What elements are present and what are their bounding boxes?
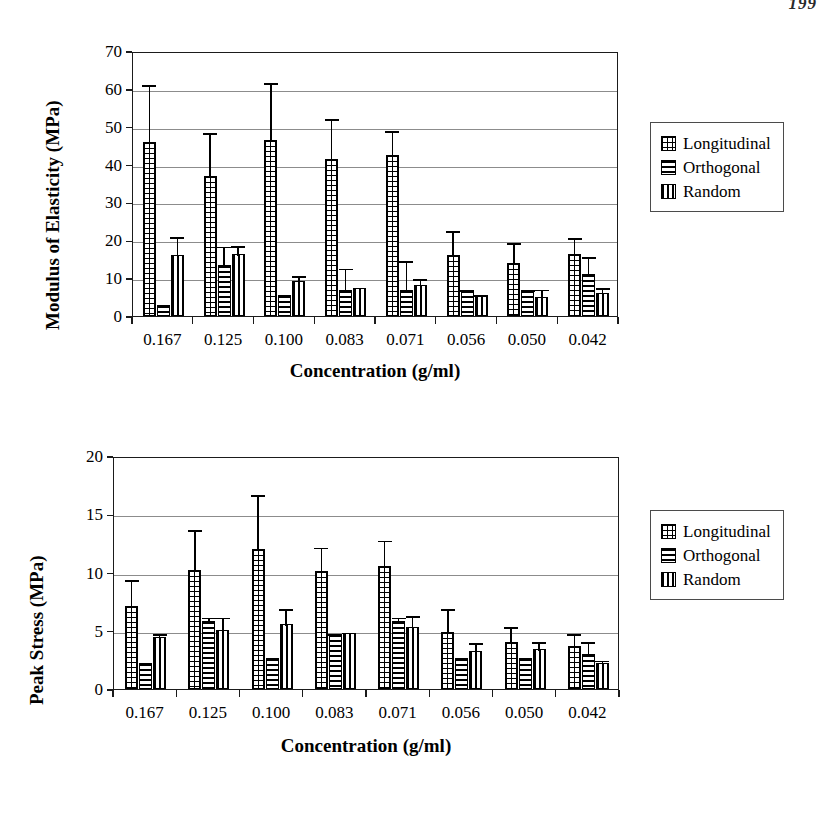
x-tick-mark bbox=[618, 690, 619, 697]
error-bar-line bbox=[406, 261, 408, 291]
bar bbox=[218, 265, 231, 316]
error-bar-cap bbox=[460, 290, 474, 292]
error-bar-cap bbox=[203, 133, 217, 135]
bar bbox=[414, 285, 427, 316]
x-tick-label: 0.125 bbox=[193, 330, 254, 350]
x-tick-label: 0.100 bbox=[240, 703, 303, 723]
legend: LongitudinalOrthogonalRandom bbox=[650, 510, 784, 600]
y-tick-label: 40 bbox=[82, 156, 122, 176]
error-bar-cap bbox=[446, 231, 460, 233]
y-tick-mark bbox=[126, 89, 132, 90]
bar bbox=[315, 571, 328, 689]
legend-item-label: Orthogonal bbox=[683, 547, 760, 564]
x-tick-mark bbox=[617, 317, 618, 324]
y-tick-mark bbox=[107, 456, 113, 457]
error-bar-line bbox=[510, 627, 512, 644]
legend-item[interactable]: Longitudinal bbox=[661, 523, 771, 540]
bar bbox=[252, 549, 265, 689]
bar bbox=[596, 293, 609, 316]
bar bbox=[447, 255, 460, 316]
y-tick-mark bbox=[126, 278, 132, 279]
error-bar-line bbox=[447, 609, 449, 633]
plot-area bbox=[132, 52, 618, 317]
error-bar-line bbox=[588, 257, 590, 276]
legend-swatch-icon bbox=[661, 136, 676, 151]
error-bar-line bbox=[285, 609, 287, 625]
bar bbox=[339, 290, 352, 317]
y-tick-label: 20 bbox=[82, 231, 122, 251]
error-bar-cap bbox=[125, 580, 139, 582]
error-bar-cap bbox=[231, 246, 245, 248]
legend-swatch-icon bbox=[661, 160, 676, 175]
error-bar-cap bbox=[264, 83, 278, 85]
error-bar-line bbox=[392, 131, 394, 157]
y-tick-label: 0 bbox=[82, 307, 122, 327]
error-bar-line bbox=[331, 119, 333, 161]
error-bar-line bbox=[131, 580, 133, 608]
x-tick-mark bbox=[435, 317, 436, 324]
bar bbox=[461, 290, 474, 317]
bar bbox=[292, 281, 305, 316]
error-bar-cap bbox=[406, 616, 420, 618]
legend-item[interactable]: Random bbox=[661, 183, 771, 200]
legend-item[interactable]: Longitudinal bbox=[661, 135, 771, 152]
y-tick-label: 70 bbox=[82, 42, 122, 62]
y-tick-label: 20 bbox=[63, 447, 103, 467]
x-tick-mark bbox=[557, 317, 558, 324]
bar bbox=[505, 642, 518, 689]
error-bar-line bbox=[588, 642, 590, 656]
error-bar-line bbox=[257, 495, 259, 551]
error-bar-cap bbox=[325, 119, 339, 121]
error-bar-cap bbox=[535, 290, 549, 292]
error-bar-cap bbox=[142, 85, 156, 87]
bar bbox=[519, 658, 532, 689]
bar bbox=[188, 570, 201, 689]
y-tick-mark bbox=[126, 203, 132, 204]
error-bar-cap bbox=[216, 618, 230, 620]
x-tick-label: 0.042 bbox=[556, 703, 619, 723]
bar bbox=[329, 634, 342, 689]
figure-peak-stress: Peak Stress (MPa) Concentration (g/ml) 0… bbox=[0, 435, 835, 810]
x-tick-label: 0.071 bbox=[375, 330, 436, 350]
x-tick-mark bbox=[239, 690, 240, 697]
error-bar-line bbox=[321, 548, 323, 574]
legend-item-label: Random bbox=[683, 183, 741, 200]
x-tick-label: 0.042 bbox=[557, 330, 618, 350]
error-bar-cap bbox=[441, 609, 455, 611]
figure-modulus-of-elasticity: Modulus of Elasticity (MPa) Concentratio… bbox=[0, 30, 835, 405]
gridline bbox=[133, 91, 617, 92]
legend-swatch-icon bbox=[661, 524, 676, 539]
bar bbox=[278, 295, 291, 316]
error-bar-line bbox=[384, 541, 386, 568]
legend-item[interactable]: Orthogonal bbox=[661, 547, 771, 564]
x-tick-label: 0.100 bbox=[254, 330, 315, 350]
bar bbox=[204, 176, 217, 316]
legend-item[interactable]: Random bbox=[661, 571, 771, 588]
x-tick-mark bbox=[192, 317, 193, 324]
legend-item[interactable]: Orthogonal bbox=[661, 159, 771, 176]
bar bbox=[143, 142, 156, 316]
bar bbox=[325, 159, 338, 316]
x-tick-mark bbox=[492, 690, 493, 697]
error-bar-cap bbox=[217, 247, 231, 249]
y-tick-label: 5 bbox=[63, 622, 103, 642]
bar bbox=[157, 305, 170, 316]
error-bar-cap bbox=[339, 269, 353, 271]
legend-swatch-icon bbox=[661, 548, 676, 563]
error-bar-line bbox=[452, 231, 454, 258]
y-tick-label: 10 bbox=[82, 269, 122, 289]
y-tick-mark bbox=[126, 241, 132, 242]
error-bar-cap bbox=[385, 131, 399, 133]
bar bbox=[406, 627, 419, 689]
error-bar-cap bbox=[567, 634, 581, 636]
gridline bbox=[133, 167, 617, 168]
bar bbox=[582, 654, 595, 689]
gridline bbox=[114, 516, 618, 517]
legend: LongitudinalOrthogonalRandom bbox=[650, 122, 784, 212]
x-tick-mark bbox=[131, 317, 132, 324]
bar bbox=[280, 624, 293, 689]
x-tick-mark bbox=[429, 690, 430, 697]
x-tick-mark bbox=[302, 690, 303, 697]
bar bbox=[264, 140, 277, 316]
bar bbox=[441, 632, 454, 689]
